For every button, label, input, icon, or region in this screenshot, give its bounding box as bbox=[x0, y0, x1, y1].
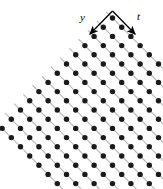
lattice-dot bbox=[128, 71, 133, 76]
lattice-dot bbox=[137, 135, 142, 140]
lattice-dot bbox=[18, 144, 23, 149]
lattice-dot bbox=[137, 80, 142, 85]
lattice-dot bbox=[147, 52, 152, 57]
lattice-dot bbox=[91, 71, 96, 76]
lattice-dot bbox=[128, 163, 133, 168]
lattice-dot bbox=[101, 135, 106, 140]
lattice-dot bbox=[119, 61, 124, 66]
lattice-dot bbox=[156, 153, 161, 158]
lattice-dot bbox=[55, 107, 60, 112]
lattice-dot bbox=[73, 181, 78, 186]
lattice-dot bbox=[101, 80, 106, 85]
axis-label-t: t bbox=[137, 11, 140, 22]
lattice-dot bbox=[36, 89, 41, 94]
lattice-dot bbox=[45, 98, 50, 103]
lattice-dot bbox=[64, 153, 69, 158]
lattice-dot bbox=[73, 52, 78, 57]
lattice-dot bbox=[128, 34, 133, 39]
lattice-dot bbox=[45, 172, 50, 177]
lattice-dot bbox=[110, 181, 115, 186]
lattice-dot bbox=[119, 25, 124, 30]
lattice-dot bbox=[73, 126, 78, 131]
lattice-dot bbox=[137, 153, 142, 158]
lattice-dot bbox=[119, 98, 124, 103]
lattice-dot bbox=[101, 61, 106, 66]
lattice-dot bbox=[91, 89, 96, 94]
lattice-dot bbox=[64, 135, 69, 140]
lattice-dot bbox=[45, 117, 50, 122]
lattice-dot bbox=[55, 71, 60, 76]
lattice-dot bbox=[110, 71, 115, 76]
lattice-dot bbox=[27, 135, 32, 140]
lattice-dot bbox=[156, 117, 161, 122]
lattice-dot bbox=[119, 117, 124, 122]
lattice-dot bbox=[9, 117, 14, 122]
lattice-dot bbox=[55, 89, 60, 94]
lattice-dot bbox=[128, 181, 133, 186]
lattice-dot bbox=[36, 144, 41, 149]
lattice-dot bbox=[82, 153, 87, 158]
lattice-dot bbox=[55, 144, 60, 149]
lattice-dot bbox=[64, 61, 69, 66]
lattice-dot bbox=[91, 52, 96, 57]
lattice-dot bbox=[101, 25, 106, 30]
lattice-dot bbox=[128, 126, 133, 131]
lattice-dot bbox=[110, 34, 115, 39]
lattice-dot bbox=[101, 172, 106, 177]
lattice-dot bbox=[91, 34, 96, 39]
lattice-dot bbox=[55, 163, 60, 168]
lattice-dot bbox=[137, 117, 142, 122]
lattice-dot bbox=[101, 117, 106, 122]
lattice-dot bbox=[55, 181, 60, 186]
lattice-dot bbox=[73, 107, 78, 112]
lattice-dot bbox=[64, 117, 69, 122]
lattice-dot bbox=[82, 172, 87, 177]
lattice-dot bbox=[110, 163, 115, 168]
lattice-dot bbox=[119, 135, 124, 140]
lattice-dot bbox=[147, 71, 152, 76]
lattice-dot bbox=[110, 126, 115, 131]
lattice-canvas bbox=[0, 0, 163, 189]
lattice-dot bbox=[91, 107, 96, 112]
lattice-dot bbox=[45, 135, 50, 140]
lattice-dot bbox=[101, 153, 106, 158]
lattice-dot bbox=[156, 61, 161, 66]
lattice-figure: y t bbox=[0, 0, 163, 189]
guide-line bbox=[88, 30, 163, 144]
lattice-dot bbox=[64, 98, 69, 103]
lattice-dot bbox=[82, 80, 87, 85]
lattice-dot bbox=[55, 126, 60, 131]
axis-arrow-y bbox=[90, 11, 113, 34]
lattice-dot bbox=[119, 172, 124, 177]
lattice-dot bbox=[101, 98, 106, 103]
lattice-dot bbox=[27, 117, 32, 122]
guide-line bbox=[0, 122, 110, 189]
lattice-dot bbox=[64, 172, 69, 177]
lattice-dot bbox=[91, 126, 96, 131]
lattice-dot bbox=[156, 135, 161, 140]
lattice-dot bbox=[73, 163, 78, 168]
lattice-dot bbox=[137, 43, 142, 48]
lattice-dot bbox=[73, 89, 78, 94]
lattice-dot bbox=[137, 172, 142, 177]
lattice-dot bbox=[128, 144, 133, 149]
lattice-dot bbox=[27, 98, 32, 103]
lattice-dot bbox=[18, 126, 23, 131]
lattice-dot bbox=[156, 98, 161, 103]
lattice-dot bbox=[45, 153, 50, 158]
lattice-dot bbox=[91, 144, 96, 149]
lattice-dot bbox=[147, 163, 152, 168]
lattice-dot bbox=[82, 117, 87, 122]
lattice-dot bbox=[82, 43, 87, 48]
lattice-dot bbox=[110, 107, 115, 112]
lattice-dot bbox=[156, 172, 161, 177]
lattice-dot bbox=[119, 153, 124, 158]
lattice-dot bbox=[45, 80, 50, 85]
lattice-dot bbox=[147, 89, 152, 94]
lattice-dot bbox=[73, 71, 78, 76]
lattice-dot bbox=[156, 80, 161, 85]
lattice-dot bbox=[64, 80, 69, 85]
axis-arrow-t bbox=[113, 11, 136, 34]
lattice-dot bbox=[110, 52, 115, 57]
lattice-dot bbox=[137, 98, 142, 103]
